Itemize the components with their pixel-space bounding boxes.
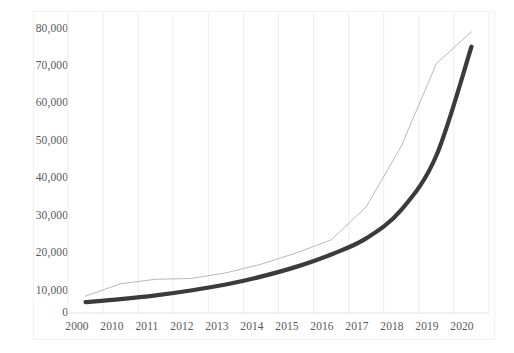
vertical-gridlines bbox=[68, 13, 489, 313]
chart-container: 80,000 70,000 60,000 50,000 40,000 30,00… bbox=[0, 0, 514, 353]
plot-area bbox=[0, 0, 514, 353]
